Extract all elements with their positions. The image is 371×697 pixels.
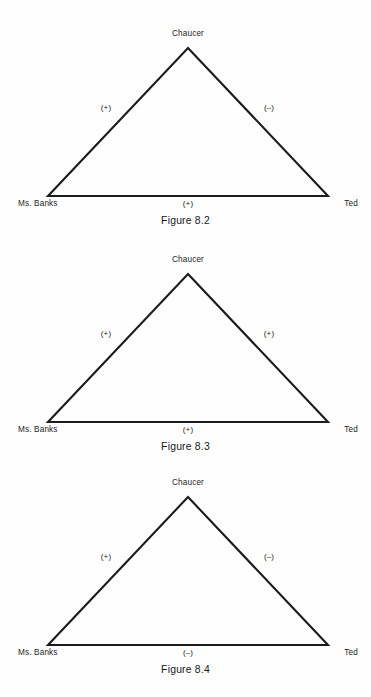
- edge-sign-left: (+): [101, 330, 111, 338]
- edge-sign-bottom: (+): [183, 200, 193, 208]
- figure-caption: Figure 8.2: [0, 216, 371, 226]
- edge-sign-left: (+): [101, 104, 111, 112]
- node-label-ms-banks: Ms. Banks: [18, 200, 58, 208]
- edge-sign-bottom: (+): [183, 426, 193, 434]
- triangle-outline: [48, 48, 328, 196]
- edge-sign-bottom: (–): [183, 649, 193, 657]
- figure-caption: Figure 8.4: [0, 665, 371, 675]
- node-label-chaucer: Chaucer: [172, 479, 204, 487]
- edge-sign-left: (+): [101, 553, 111, 561]
- node-label-chaucer: Chaucer: [172, 30, 204, 38]
- figure-page: Chaucer Ms. Banks Ted (+) (–) (+) Figure…: [0, 0, 371, 697]
- node-label-chaucer: Chaucer: [172, 256, 204, 264]
- node-label-ted: Ted: [344, 200, 358, 208]
- triangle-outline: [48, 274, 328, 422]
- figure-8-2: Chaucer Ms. Banks Ted (+) (–) (+) Figure…: [0, 28, 371, 238]
- node-label-ted: Ted: [344, 426, 358, 434]
- edge-sign-right: (+): [264, 330, 274, 338]
- figure-8-3: Chaucer Ms. Banks Ted (+) (+) (+) Figure…: [0, 254, 371, 464]
- triangle-diagram-8-2: [0, 28, 371, 213]
- edge-sign-right: (–): [264, 553, 274, 561]
- node-label-ms-banks: Ms. Banks: [18, 649, 58, 657]
- triangle-diagram-8-4: [0, 477, 371, 662]
- figure-8-4: Chaucer Ms. Banks Ted (+) (–) (–) Figure…: [0, 477, 371, 687]
- triangle-outline: [48, 497, 328, 645]
- node-label-ms-banks: Ms. Banks: [18, 426, 58, 434]
- edge-sign-right: (–): [264, 104, 274, 112]
- triangle-diagram-8-3: [0, 254, 371, 439]
- figure-caption: Figure 8.3: [0, 442, 371, 452]
- node-label-ted: Ted: [344, 649, 358, 657]
